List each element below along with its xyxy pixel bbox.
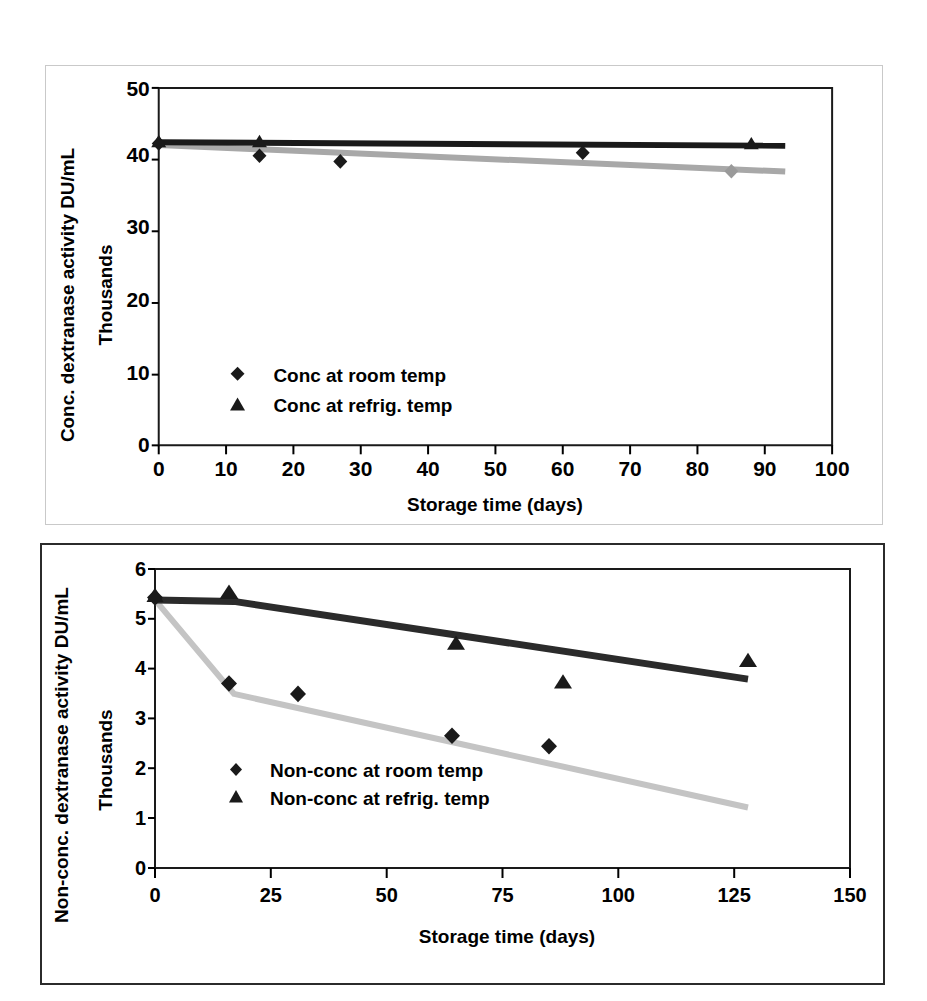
- y-tick-label-bottom-4: 4: [135, 657, 147, 679]
- plot-frame-bottom: [155, 569, 850, 868]
- legend-marker-triangle-icon: [230, 398, 245, 411]
- chart-panel-bottom: Non-conc. dextranase activity DU/mL Thou…: [40, 543, 885, 985]
- legend-label-room-temp: Conc at room temp: [273, 365, 446, 386]
- y-tick-label-bottom-3: 3: [135, 707, 146, 729]
- data-point-triangle: [554, 674, 572, 688]
- data-point-diamond: [333, 154, 347, 169]
- trendline-top-room: [159, 145, 786, 171]
- data-point-diamond: [290, 686, 306, 703]
- y-tick-label-top-40: 40: [126, 143, 149, 166]
- x-tick-label-bottom-50: 50: [376, 884, 398, 906]
- x-tick-label-bottom-25: 25: [260, 884, 282, 906]
- y-tick-label-bottom-0: 0: [135, 857, 146, 879]
- y-tick-label-bottom-1: 1: [135, 807, 146, 829]
- x-tick-label-top-100: 100: [815, 457, 850, 480]
- x-ticks-top: [159, 445, 832, 454]
- data-point-triangle: [739, 653, 757, 667]
- chart-bottom-svg: Non-conc. dextranase activity DU/mL Thou…: [42, 545, 883, 983]
- x-axis-title-bottom: Storage time (days): [419, 926, 595, 947]
- x-tick-label-top-20: 20: [282, 457, 305, 480]
- data-point-diamond: [576, 146, 590, 161]
- y-tick-label-top-0: 0: [138, 433, 150, 456]
- x-tick-label-top-10: 10: [214, 457, 237, 480]
- legend-label-nonconc-refrig-temp: Non-conc at refrig. temp: [270, 788, 490, 809]
- x-tick-label-top-80: 80: [686, 457, 709, 480]
- legend-marker-diamond-icon: [231, 367, 245, 381]
- y-axis-title-top: Conc. dextranase activity DU/mL: [57, 148, 78, 442]
- legend-label-refrig-temp: Conc at refrig. temp: [273, 396, 452, 417]
- data-point-diamond: [541, 738, 557, 755]
- series-bottom-room-markers: [147, 589, 557, 754]
- y-tick-label-top-50: 50: [126, 77, 149, 100]
- legend-bottom: Non-conc at room temp Non-conc at refrig…: [229, 760, 490, 809]
- y-axis-subtitle-bottom: Thousands: [95, 709, 116, 810]
- y-axis-subtitle-top: Thousands: [95, 245, 116, 346]
- data-point-triangle: [220, 585, 239, 600]
- chart-panel-top: Conc. dextranase activity DU/mL Thousand…: [45, 65, 883, 525]
- x-axis-title-top: Storage time (days): [407, 494, 583, 515]
- x-tick-label-top-30: 30: [349, 457, 372, 480]
- legend-label-nonconc-room-temp: Non-conc at room temp: [270, 760, 483, 781]
- x-tick-label-top-90: 90: [753, 457, 776, 480]
- x-tick-label-bottom-150: 150: [833, 884, 866, 906]
- x-tick-label-bottom-125: 125: [718, 884, 751, 906]
- x-tick-label-top-70: 70: [618, 457, 641, 480]
- legend-marker-triangle-icon: [229, 790, 243, 803]
- x-tick-label-bottom-75: 75: [491, 884, 513, 906]
- y-tick-label-top-20: 20: [126, 288, 149, 311]
- y-tick-label-top-30: 30: [126, 215, 149, 238]
- data-point-triangle: [147, 588, 164, 603]
- y-axis-title-bottom: Non-conc. dextranase activity DU/mL: [51, 587, 72, 923]
- y-tick-label-bottom-5: 5: [135, 607, 146, 629]
- figure-container: Conc. dextranase activity DU/mL Thousand…: [0, 0, 927, 1001]
- legend-top: Conc at room temp Conc at refrig. temp: [230, 365, 452, 417]
- chart-top-svg: Conc. dextranase activity DU/mL Thousand…: [46, 66, 882, 524]
- y-tick-label-top-10: 10: [126, 361, 149, 384]
- trendline-top-refrig: [159, 142, 786, 146]
- x-tick-label-top-40: 40: [416, 457, 439, 480]
- trendline-bottom-refrig: [155, 600, 748, 679]
- x-tick-label-top-60: 60: [551, 457, 574, 480]
- y-tick-label-bottom-6: 6: [135, 558, 146, 580]
- x-ticks-bottom: [155, 868, 850, 878]
- x-tick-label-top-0: 0: [153, 457, 165, 480]
- y-ticks-bottom: [148, 569, 155, 868]
- x-tick-label-bottom-100: 100: [602, 884, 635, 906]
- legend-marker-diamond-icon: [230, 763, 242, 776]
- x-tick-label-top-50: 50: [484, 457, 507, 480]
- x-tick-label-bottom-0: 0: [149, 884, 160, 906]
- y-tick-label-bottom-2: 2: [135, 757, 146, 779]
